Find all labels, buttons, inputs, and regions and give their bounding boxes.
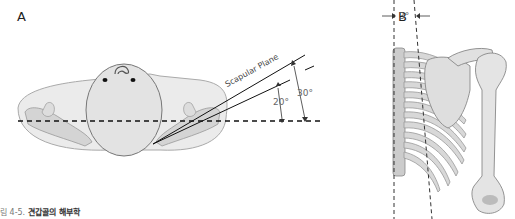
caption-prefix: 림 4-5. <box>0 208 25 217</box>
angle-30-label: 30° <box>297 88 313 98</box>
angle-20-label: 20° <box>273 97 289 107</box>
caption-title: 견갑골의 해부학 <box>28 208 80 217</box>
angle-3-label: 3° <box>399 11 409 21</box>
scapular-plane-diagram <box>0 0 515 219</box>
skeleton-posterior-view <box>393 48 506 213</box>
figure-caption: 림 4-5. 견갑골의 해부학 <box>0 206 80 217</box>
body-top-view <box>18 64 227 156</box>
